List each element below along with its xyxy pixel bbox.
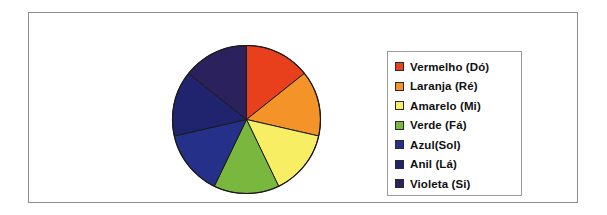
legend-item-laranja[interactable]: Laranja (Ré) [395,77,521,97]
legend-item-vermelho[interactable]: Vermelho (Dó) [395,57,521,77]
legend-swatch-verde [395,121,404,130]
pie-slice-group [173,46,321,194]
legend-item-azul[interactable]: Azul(Sol) [395,135,521,155]
legend-swatch-amarelo [395,101,404,110]
chart-legend: Vermelho (Dó) Laranja (Ré) Amarelo (Mi) … [387,51,522,196]
legend-swatch-laranja [395,82,404,91]
legend-swatch-vermelho [395,62,404,71]
legend-swatch-violeta [395,179,404,188]
legend-label-azul: Azul(Sol) [410,139,461,151]
legend-label-verde: Verde (Fá) [410,119,467,131]
legend-item-anil[interactable]: Anil (Lá) [395,155,521,175]
legend-label-amarelo: Amarelo (Mi) [410,100,481,112]
legend-label-violeta: Violeta (Si) [410,178,470,190]
legend-swatch-anil [395,160,404,169]
legend-label-anil: Anil (Lá) [410,158,457,170]
legend-item-violeta[interactable]: Violeta (Si) [395,174,521,194]
legend-label-vermelho: Vermelho (Dó) [410,61,489,73]
legend-item-verde[interactable]: Verde (Fá) [395,116,521,136]
screenshot-canvas: Vermelho (Dó) Laranja (Ré) Amarelo (Mi) … [0,0,607,215]
legend-item-amarelo[interactable]: Amarelo (Mi) [395,96,521,116]
figure-frame: Vermelho (Dó) Laranja (Ré) Amarelo (Mi) … [28,12,578,203]
pie-chart-svg [171,44,322,195]
pie-chart [171,44,322,195]
legend-label-laranja: Laranja (Ré) [410,80,478,92]
legend-swatch-azul [395,140,404,149]
